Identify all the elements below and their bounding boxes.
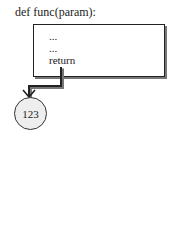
return-value: 123 [22, 108, 39, 120]
return-value-node: 123 [14, 97, 47, 130]
